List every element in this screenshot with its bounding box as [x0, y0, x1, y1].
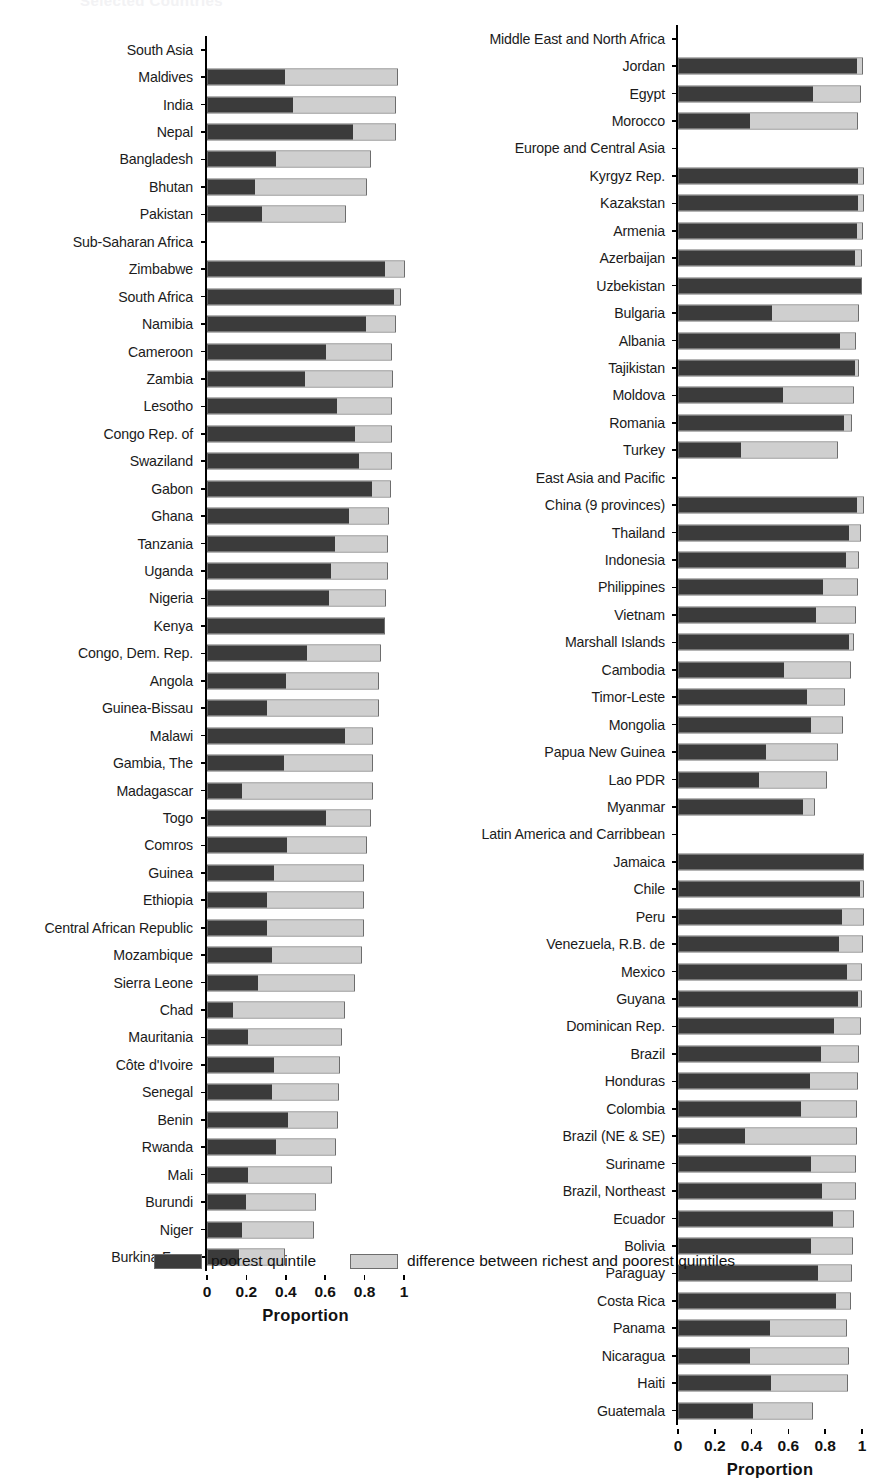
stacked-bar	[678, 332, 856, 349]
stacked-bar	[207, 1084, 339, 1101]
bar-segment-difference	[753, 1403, 813, 1418]
bar-segment-difference	[811, 1156, 855, 1171]
stacked-bar	[207, 645, 381, 662]
bar-segment-difference	[855, 360, 859, 375]
country-label: Ethiopia	[0, 893, 200, 908]
bar-segment-poorest	[679, 86, 813, 101]
stacked-bar	[207, 919, 364, 936]
stacked-bar	[207, 398, 392, 415]
bar-row: Zimbabwe	[0, 256, 440, 283]
bar-row: Mauritania	[0, 1024, 440, 1051]
stacked-bar	[207, 425, 392, 442]
group-row: Europe and Central Asia	[440, 135, 889, 162]
bar-row: Uzbekistan	[440, 272, 889, 299]
bar-segment-poorest	[679, 1403, 753, 1418]
bar-segment-poorest	[208, 1030, 248, 1045]
bar-segment-difference	[813, 86, 860, 101]
bar-segment-difference	[857, 223, 863, 238]
bar-segment-difference	[839, 937, 862, 952]
bar-row: Madagascar	[0, 777, 440, 804]
stacked-bar	[207, 727, 373, 744]
bar-segment-difference	[811, 717, 841, 732]
bar-segment-poorest	[208, 289, 394, 304]
country-label: Bhutan	[0, 179, 200, 194]
bar-segment-difference	[287, 838, 366, 853]
bar-segment-poorest	[679, 388, 783, 403]
bar-row: Congo Rep. of	[0, 420, 440, 447]
bar-segment-difference	[801, 1101, 855, 1116]
country-label: Guinea-Bissau	[0, 701, 200, 716]
bar-segment-poorest	[208, 509, 349, 524]
stacked-bar	[207, 508, 389, 525]
bar-segment-difference	[242, 1222, 313, 1237]
x-axis-tick-label: 0.4	[275, 1283, 297, 1301]
bar-row: Papua New Guinea	[440, 738, 889, 765]
stacked-bar	[678, 1100, 857, 1117]
country-label: Bangladesh	[0, 152, 200, 167]
country-label: Jamaica	[440, 854, 672, 869]
country-label: Mexico	[440, 964, 672, 979]
bar-segment-difference	[307, 646, 381, 661]
bar-segment-difference	[750, 114, 857, 129]
bar-segment-difference	[844, 415, 851, 430]
bar-segment-difference	[366, 317, 396, 332]
bar-segment-difference	[285, 70, 397, 85]
stacked-bar	[207, 1194, 316, 1211]
stacked-bar	[678, 414, 852, 431]
x-axis-tick	[246, 1275, 248, 1280]
stacked-bar	[678, 1183, 856, 1200]
bar-row: Côte d'Ivoire	[0, 1051, 440, 1078]
bar-segment-difference	[847, 964, 861, 979]
bar-row: Chad	[0, 996, 440, 1023]
bar-row: Romania	[440, 409, 889, 436]
x-axis-tick-label: 0.2	[236, 1283, 258, 1301]
bar-segment-poorest	[208, 399, 337, 414]
country-label: Ghana	[0, 509, 200, 524]
country-label: Angola	[0, 673, 200, 688]
bar-segment-poorest	[208, 536, 335, 551]
bar-segment-difference	[745, 1129, 855, 1144]
bar-row: Colombia	[440, 1095, 889, 1122]
stacked-bar	[678, 606, 856, 623]
country-label: Lesotho	[0, 399, 200, 414]
stacked-bar	[207, 755, 373, 772]
country-label: Guatemala	[440, 1403, 672, 1418]
bar-segment-poorest	[679, 717, 811, 732]
bar-segment-poorest	[679, 1211, 833, 1226]
stacked-bar	[207, 1056, 340, 1073]
group-row: Latin America and Carribbean	[440, 821, 889, 848]
stacked-bar	[207, 1111, 338, 1128]
bar-segment-poorest	[679, 251, 855, 266]
x-axis-tick-label: 0.6	[314, 1283, 336, 1301]
country-label: Gabon	[0, 481, 200, 496]
legend-item-difference: difference between richest and poorest q…	[350, 1252, 735, 1270]
country-label: Benin	[0, 1112, 200, 1127]
bar-segment-difference	[274, 865, 363, 880]
bar-segment-difference	[355, 426, 391, 441]
bar-row: Azerbaijan	[440, 245, 889, 272]
bar-segment-difference	[242, 783, 371, 798]
country-label: Congo, Dem. Rep.	[0, 646, 200, 661]
stacked-bar	[678, 497, 864, 514]
stacked-bar	[207, 864, 364, 881]
country-label: Rwanda	[0, 1140, 200, 1155]
stacked-bar	[678, 853, 864, 870]
stacked-bar	[207, 700, 379, 717]
bar-row: Costa Rica	[440, 1287, 889, 1314]
stacked-bar	[678, 771, 827, 788]
bar-segment-difference	[246, 1195, 315, 1210]
bar-row: Kyrgyz Rep.	[440, 162, 889, 189]
bar-segment-difference	[326, 810, 369, 825]
bar-segment-poorest	[208, 1195, 246, 1210]
country-label: Sierra Leone	[0, 975, 200, 990]
bar-segment-difference	[857, 59, 863, 74]
stacked-bar	[207, 563, 388, 580]
bar-row: Brazil	[440, 1040, 889, 1067]
stacked-bar	[678, 579, 858, 596]
bar-segment-poorest	[208, 371, 305, 386]
bar-segment-poorest	[679, 1376, 771, 1391]
bar-segment-difference	[288, 1112, 337, 1127]
country-label: Comros	[0, 838, 200, 853]
bar-segment-difference	[855, 251, 861, 266]
legend-label-poorest: poorest quintile	[211, 1252, 316, 1270]
